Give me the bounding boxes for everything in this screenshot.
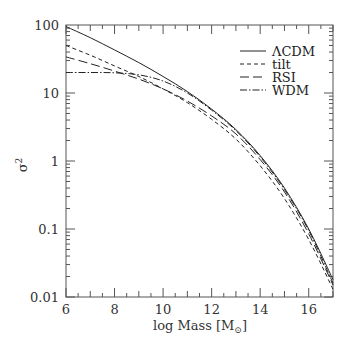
axis-ticks <box>66 25 333 297</box>
y-tick-label: 100 <box>34 18 59 33</box>
x-axis-title: log Mass [M⊙] <box>153 318 247 335</box>
data-curves <box>66 27 333 290</box>
plot-frame <box>66 25 333 297</box>
y-tick-label: 0.01 <box>30 290 59 305</box>
y-tick-label: 0.1 <box>38 222 59 237</box>
y-tick-label: 10 <box>42 86 59 101</box>
x-tick-label: 16 <box>300 302 317 317</box>
y-axis-title: σ2 <box>14 158 30 173</box>
curve-wdm <box>66 73 333 284</box>
sigma-squared-vs-mass-chart: 68101214160.010.1110100 ΛCDMtiltRSIWDM l… <box>0 0 350 358</box>
plot-border <box>66 25 333 297</box>
x-tick-label: 14 <box>252 302 269 317</box>
legend: ΛCDMtiltRSIWDM <box>240 44 315 98</box>
y-tick-label: 1 <box>51 154 59 169</box>
legend-label: WDM <box>272 83 309 98</box>
x-tick-label: 12 <box>203 302 220 317</box>
curve--cdm <box>66 27 333 280</box>
x-tick-label: 6 <box>62 302 70 317</box>
x-tick-label: 10 <box>155 302 172 317</box>
x-tick-label: 8 <box>110 302 118 317</box>
